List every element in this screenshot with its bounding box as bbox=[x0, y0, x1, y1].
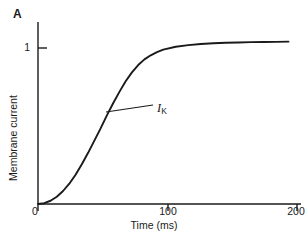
x-tick-label-0: 0 bbox=[26, 205, 44, 217]
figure-panel-a: A 1 0 100 200 Time (ms) Membrane current… bbox=[0, 0, 308, 239]
x-tick-label-200: 200 bbox=[280, 205, 308, 217]
x-axis-title: Time (ms) bbox=[0, 219, 308, 231]
series-subscript: K bbox=[161, 106, 167, 116]
annotation-leader-line bbox=[106, 105, 153, 112]
series-label-ik: IK bbox=[157, 101, 167, 116]
x-tick-label-100: 100 bbox=[152, 205, 184, 217]
y-tick-label-1: 1 bbox=[12, 41, 30, 53]
plot-area bbox=[0, 0, 308, 239]
y-axis-title: Membrane current bbox=[7, 73, 19, 203]
current-trace-ik bbox=[38, 42, 288, 204]
panel-label: A bbox=[13, 7, 22, 21]
